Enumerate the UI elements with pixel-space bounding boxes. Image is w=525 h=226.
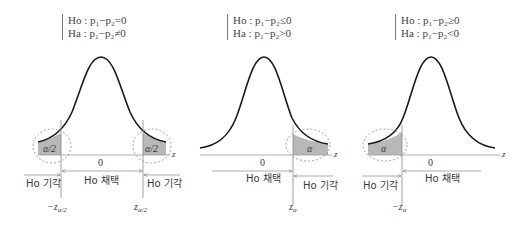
center-zero-label: 0 xyxy=(260,157,265,168)
center-zero-label: 0 xyxy=(428,157,433,168)
accept-label: Ho 채택 xyxy=(425,173,460,184)
z-axis-label: z xyxy=(333,149,338,159)
panel-left-tailed: α z 0 Ho 채택 Ho 기각 −zα xyxy=(362,57,506,214)
accept-label: Ho 채택 xyxy=(246,173,281,184)
normal-curve xyxy=(200,57,328,148)
reject-label-right: Ho 기각 xyxy=(147,178,182,189)
critical-value: −zα xyxy=(392,201,407,214)
alpha-half-label-right: α/2 xyxy=(145,143,158,154)
alpha-half-label-left: α/2 xyxy=(43,143,56,154)
panel-right-tailed: α z 0 Ho 채택 Ho 기각 zα xyxy=(200,57,338,214)
hypothesis-test-diagram: Ho : p₁−p₂=0 Ha : p₁−p₂≠0 Ho : p₁−p₂≤0 H… xyxy=(0,0,525,226)
panel-two-tailed: α/2 α/2 z 0 Ho 채택 Ho 기각 Ho 기각 −zα/2 zα/2 xyxy=(24,57,182,214)
alpha-label: α xyxy=(381,143,387,154)
alpha-label: α xyxy=(307,143,313,154)
z-axis-label: z xyxy=(501,149,506,159)
reject-label: Ho 기각 xyxy=(363,180,398,191)
z-axis-label: z xyxy=(171,149,176,159)
reject-label-left: Ho 기각 xyxy=(26,178,61,189)
center-zero-label: 0 xyxy=(98,157,103,168)
reject-label: Ho 기각 xyxy=(303,180,338,191)
normal-curve xyxy=(368,57,495,148)
critical-value: zα xyxy=(288,201,297,214)
accept-label: Ho 채택 xyxy=(84,175,119,186)
critical-value-right: zα/2 xyxy=(133,201,148,214)
critical-value-left: −zα/2 xyxy=(47,201,67,214)
